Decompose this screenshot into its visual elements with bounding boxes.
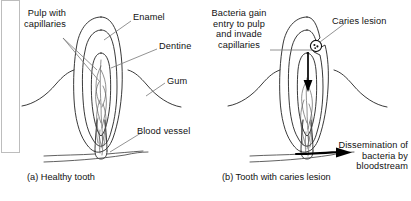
label-dissemination: Dissemination of bacteria by bloodstream <box>330 140 408 172</box>
leader-caries-lesion <box>320 24 344 42</box>
leader-pulp-b <box>63 38 97 70</box>
label-enamel: Enamel <box>133 12 165 23</box>
label-pulp-with-capillaries: Pulp with capillaries <box>10 8 66 29</box>
label-blood-vessel: Blood vessel <box>137 126 190 137</box>
bacteria-invasion-arrow <box>304 52 313 92</box>
leader-dentine <box>111 49 157 68</box>
bacteria-dot <box>316 45 318 47</box>
caries-lesion-mark <box>310 40 321 51</box>
panel-a-tooth <box>22 17 181 162</box>
caption-panel-a: (a) Healthy tooth <box>27 172 95 183</box>
label-dentine: Dentine <box>159 41 191 52</box>
figure-canvas: Pulp with capillaries Enamel Dentine Gum… <box>0 0 411 201</box>
bacteria-dot <box>314 47 316 49</box>
gum-line-left <box>22 70 74 106</box>
panel-b-leader-lines <box>270 24 344 50</box>
bacteria-dot <box>313 44 315 46</box>
pulp-capillaries <box>96 60 107 155</box>
gum-line-right-b <box>334 70 387 107</box>
pulp-chamber <box>91 53 110 136</box>
label-gum: Gum <box>167 76 187 87</box>
label-caries-lesion: Caries lesion <box>332 16 386 27</box>
dentine-outline <box>82 30 117 146</box>
gum-line-left-b <box>228 70 280 106</box>
leader-enamel <box>104 21 131 40</box>
label-bacteria-gain-entry: Bacteria gain entry to pulp and invade c… <box>206 8 272 50</box>
caption-panel-b: (b) Tooth with caries lesion <box>222 172 331 183</box>
leader-pulp-a <box>63 38 100 82</box>
pulp-chamber-b <box>297 53 316 136</box>
